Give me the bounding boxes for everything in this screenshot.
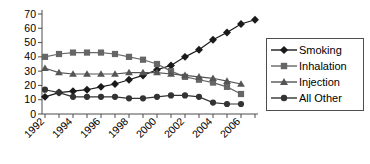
data-point — [251, 16, 259, 24]
triangle-marker-icon — [270, 75, 298, 89]
legend-label-smoking: Smoking — [299, 43, 342, 57]
data-point — [223, 29, 231, 37]
data-point — [112, 94, 118, 100]
data-point — [181, 53, 189, 61]
data-point — [196, 94, 202, 100]
legend-label-all-other: All Other — [299, 91, 342, 105]
x-tick-label: 2004 — [189, 115, 214, 140]
data-point — [126, 54, 132, 60]
chart-legend: Smoking Inhalation Injection All Other — [266, 38, 364, 111]
chart-figure: 010203040506070 199219941996199820002002… — [0, 0, 370, 164]
y-tick-label: 70 — [24, 8, 36, 20]
data-point — [238, 101, 244, 107]
legend-item-injection: Injection — [270, 74, 359, 90]
diamond-marker-icon — [270, 43, 298, 57]
data-point — [70, 49, 76, 55]
y-tick-label: 60 — [24, 22, 36, 34]
data-point — [84, 49, 90, 55]
data-point — [224, 84, 230, 90]
data-point — [154, 61, 160, 67]
data-point — [224, 101, 230, 107]
data-point — [126, 95, 132, 101]
data-point — [42, 54, 48, 60]
y-axis: 010203040506070 — [24, 8, 42, 120]
y-tick-label: 50 — [24, 36, 36, 48]
data-point — [182, 92, 188, 98]
x-tick-label: 2000 — [133, 115, 158, 140]
data-point — [112, 51, 118, 57]
data-point — [111, 80, 119, 88]
x-tick-label: 2006 — [217, 115, 242, 140]
y-tick-label: 30 — [24, 65, 36, 77]
y-tick-label: 40 — [24, 50, 36, 62]
x-tick-label: 1996 — [77, 115, 102, 140]
plot-area: 010203040506070 199219941996199820002002… — [0, 0, 262, 164]
series-layer — [41, 16, 259, 107]
data-point — [140, 57, 146, 63]
data-point — [237, 20, 245, 28]
legend-item-all-other: All Other — [270, 90, 359, 106]
legend-label-injection: Injection — [299, 75, 340, 89]
data-point — [98, 94, 104, 100]
x-tick-label: 1992 — [21, 115, 46, 140]
data-point — [84, 94, 90, 100]
data-point — [209, 36, 217, 44]
data-point — [168, 92, 174, 98]
data-point — [210, 99, 216, 105]
data-point — [83, 86, 91, 94]
data-point — [42, 87, 48, 93]
y-tick-label: 20 — [24, 79, 36, 91]
data-point — [98, 49, 104, 55]
data-point — [97, 83, 105, 91]
data-point — [140, 95, 146, 101]
x-tick-label: 2002 — [161, 115, 186, 140]
data-point — [70, 94, 76, 100]
line-chart-svg: 010203040506070 199219941996199820002002… — [0, 0, 262, 164]
data-point — [195, 46, 203, 54]
data-point — [238, 91, 244, 97]
data-point — [56, 51, 62, 57]
legend-item-smoking: Smoking — [270, 42, 359, 58]
legend-item-inhalation: Inhalation — [270, 58, 359, 74]
x-tick-label: 1998 — [105, 115, 130, 140]
y-tick-label: 10 — [24, 93, 36, 105]
x-tick-labels: 19921994199619982000200220042006 — [21, 115, 242, 140]
data-point — [56, 89, 62, 95]
legend-label-inhalation: Inhalation — [299, 59, 347, 73]
data-point — [154, 94, 160, 100]
circle-marker-icon — [270, 91, 298, 105]
data-point — [125, 76, 133, 84]
x-tick-label: 1994 — [49, 115, 74, 140]
square-marker-icon — [270, 59, 298, 73]
